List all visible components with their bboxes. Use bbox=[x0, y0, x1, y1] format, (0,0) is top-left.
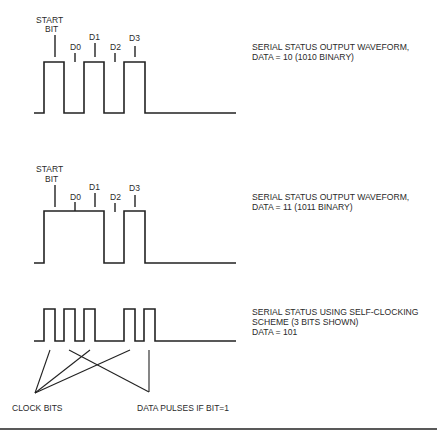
d3-label: D3 bbox=[129, 183, 140, 193]
waveform-1-group: START BIT D0 D1 D2 D3 SERIAL STATUS OUTP… bbox=[34, 15, 409, 113]
d2-label: D2 bbox=[110, 42, 121, 52]
clock-bits-label: CLOCK BITS bbox=[12, 403, 63, 413]
waveform-2-caption-line1: SERIAL STATUS OUTPUT WAVEFORM, bbox=[252, 192, 409, 202]
waveform-3-trace bbox=[34, 309, 236, 341]
d3-label: D3 bbox=[129, 33, 140, 43]
waveform-1-caption-line1: SERIAL STATUS OUTPUT WAVEFORM, bbox=[252, 42, 409, 52]
d2-label: D2 bbox=[110, 192, 121, 202]
waveform-3-caption-line3: DATA = 101 bbox=[252, 327, 298, 337]
waveform-3-caption-line2: SCHEME (3 BITS SHOWN) bbox=[252, 317, 359, 327]
data-pulse-pointer-1 bbox=[69, 350, 149, 392]
d0-label: D0 bbox=[70, 192, 81, 202]
serial-waveform-diagram: START BIT D0 D1 D2 D3 SERIAL STATUS OUTP… bbox=[0, 0, 448, 446]
d0-label: D0 bbox=[70, 42, 81, 52]
waveform-3-group: CLOCK BITS DATA PULSES IF BIT=1 SERIAL S… bbox=[12, 307, 419, 413]
start-bit-label-line2: BIT bbox=[45, 174, 58, 184]
waveform-3-caption-line1: SERIAL STATUS USING SELF-CLOCKING bbox=[252, 307, 419, 317]
waveform-2-group: START BIT D0 D1 D2 D3 SERIAL STATUS OUTP… bbox=[34, 164, 409, 263]
d1-label: D1 bbox=[89, 32, 100, 42]
waveform-2-trace bbox=[34, 211, 236, 263]
waveform-1-trace bbox=[34, 62, 236, 113]
data-pulses-label: DATA PULSES IF BIT=1 bbox=[137, 403, 229, 413]
waveform-1-caption-line2: DATA = 10 (1010 BINARY) bbox=[252, 52, 354, 62]
waveform-2-caption-line2: DATA = 11 (1011 BINARY) bbox=[252, 202, 353, 212]
start-bit-label-line1: START bbox=[36, 164, 63, 174]
d1-label: D1 bbox=[89, 182, 100, 192]
start-bit-label-line2: BIT bbox=[45, 24, 58, 34]
